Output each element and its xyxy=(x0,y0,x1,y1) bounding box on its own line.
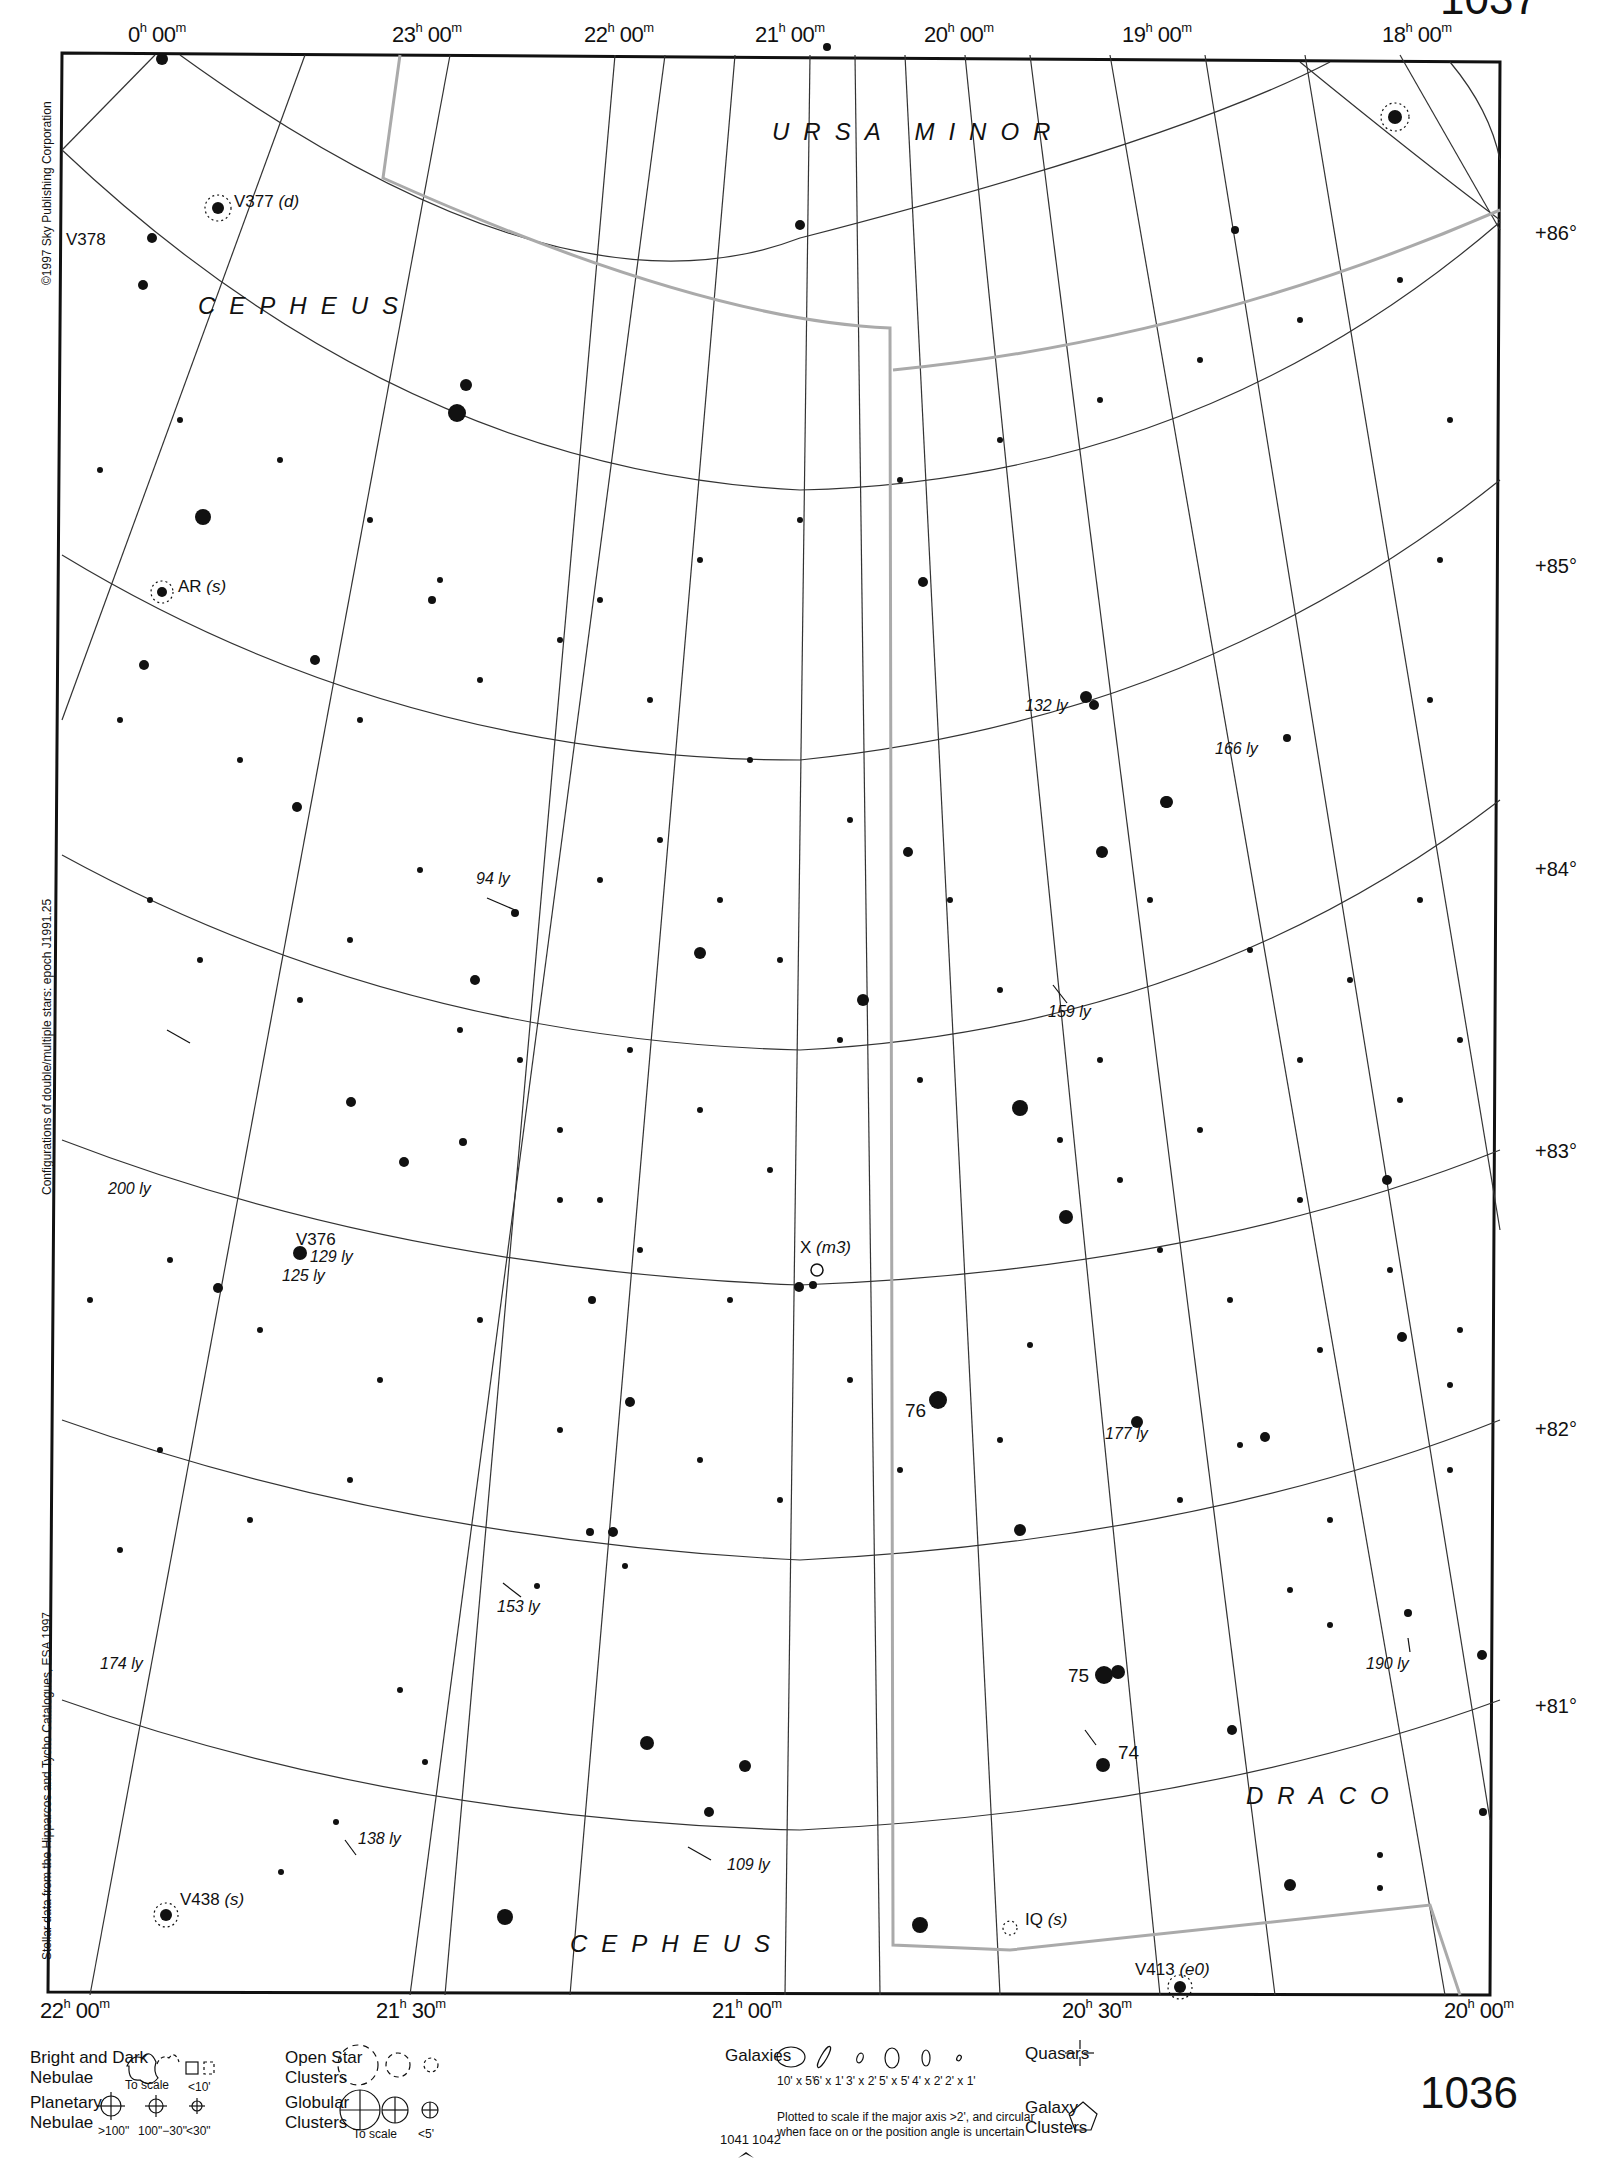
legend-title-line: Bright and Dark xyxy=(30,2048,148,2068)
legend-title-line: Galaxy xyxy=(1025,2098,1087,2118)
star-name: X xyxy=(800,1238,811,1257)
nav-next-page[interactable]: 1042 xyxy=(752,2132,781,2147)
star-note: (s) xyxy=(1048,1910,1068,1929)
ra-label: 23h 00m xyxy=(392,22,462,48)
ra-label: 20h 00m xyxy=(924,22,994,48)
constellation-name: DRACO xyxy=(1246,1782,1403,1810)
legend-galaxy-clusters-title: GalaxyClusters xyxy=(1025,2098,1087,2138)
ra-minutes: 00 xyxy=(1480,1998,1503,2023)
star-note: (s) xyxy=(224,1890,244,1909)
dec-label: +81° xyxy=(1535,1695,1577,1718)
legend-title-line: Globular xyxy=(285,2093,349,2113)
ra-minutes: 00 xyxy=(152,22,175,47)
legend-caption: 5' x 5' xyxy=(879,2074,910,2088)
star-note: (m3) xyxy=(816,1238,851,1257)
map-frame xyxy=(48,53,1500,1995)
distance-label: 166 ly xyxy=(1215,740,1258,758)
legend-note: Plotted to scale if the major axis >2', … xyxy=(777,2110,1034,2124)
legend-caption: To scale xyxy=(125,2078,169,2092)
ra-hours: 20 xyxy=(1062,1998,1085,2023)
star-note: (d) xyxy=(278,192,299,211)
ra-label: 22h 00m xyxy=(584,22,654,48)
legend-title-line: Clusters xyxy=(1025,2118,1087,2138)
legend-planetary-title: PlanetaryNebulae xyxy=(30,2093,102,2133)
dec-label: +85° xyxy=(1535,555,1577,578)
ra-minutes: 00 xyxy=(1418,22,1441,47)
ra-minutes: 30 xyxy=(1098,1998,1121,2023)
star-name: V438 xyxy=(180,1890,220,1909)
ra-minutes: 00 xyxy=(960,22,983,47)
constellation-boundaries xyxy=(383,55,1500,1995)
flamsteed-number: 76 xyxy=(905,1400,926,1422)
star-note: (s) xyxy=(206,577,226,596)
copyright-note: ©1997 Sky Publishing Corporation xyxy=(40,101,54,285)
distance-label: 159 ly xyxy=(1048,1003,1091,1021)
stars xyxy=(87,43,1487,1993)
epoch-note: Configurations of double/multiple stars:… xyxy=(40,899,54,1195)
data-source-note: Stellar data from the Hipparcos and Tych… xyxy=(40,1612,54,1960)
legend-title-line: Planetary xyxy=(30,2093,102,2113)
ra-hours: 22 xyxy=(584,22,607,47)
star-name: AR xyxy=(178,577,202,596)
ra-hours: 22 xyxy=(40,1998,63,2023)
star-label: V378 xyxy=(66,230,106,250)
legend-caption: <10' xyxy=(188,2080,211,2094)
legend-globular-title: GlobularClusters xyxy=(285,2093,349,2133)
legend-title-line: Nebulae xyxy=(30,2113,102,2133)
star-note: (e0) xyxy=(1179,1960,1209,1979)
star-name: IQ xyxy=(1025,1910,1043,1929)
ra-minutes: 00 xyxy=(1158,22,1181,47)
nav-arrow-icon[interactable] xyxy=(738,2152,754,2158)
legend-galaxies-title: Galaxies xyxy=(725,2046,791,2066)
legend-quasars-title: Quasars xyxy=(1025,2044,1089,2064)
star-label: V438 (s) xyxy=(180,1890,244,1910)
distance-label: 177 ly xyxy=(1105,1425,1148,1443)
ra-minutes: 00 xyxy=(76,1998,99,2023)
ra-minutes: 00 xyxy=(748,1998,771,2023)
distance-label: 125 ly xyxy=(282,1267,325,1285)
distance-label: 109 ly xyxy=(727,1856,770,1874)
star-label: V376 xyxy=(296,1230,336,1250)
flamsteed-number: 74 xyxy=(1118,1742,1139,1764)
declination-grid xyxy=(62,55,1500,1830)
legend-title-line: Open Star xyxy=(285,2048,363,2068)
ra-label: 21h 00m xyxy=(712,1998,782,2024)
nav-prev-page[interactable]: 1041 xyxy=(720,2132,749,2147)
ra-hours: 21 xyxy=(712,1998,735,2023)
ra-minutes: 00 xyxy=(620,22,643,47)
legend-title-line: Clusters xyxy=(285,2113,349,2133)
legend-title-line: Clusters xyxy=(285,2068,363,2088)
top-page-fragment: 1037 xyxy=(1440,0,1538,24)
ra-minutes: 00 xyxy=(791,22,814,47)
ra-label: 0h 00m xyxy=(128,22,186,48)
ra-hours: 23 xyxy=(392,22,415,47)
ra-label: 20h 30m xyxy=(1062,1998,1132,2024)
ra-minutes: 30 xyxy=(412,1998,435,2023)
distance-label: 174 ly xyxy=(100,1655,143,1673)
distance-label: 138 ly xyxy=(358,1830,401,1848)
ra-hours: 18 xyxy=(1382,22,1405,47)
page-number: 1036 xyxy=(1420,2068,1518,2118)
ra-label: 22h 00m xyxy=(40,1998,110,2024)
distance-label: 200 ly xyxy=(108,1180,151,1198)
ra-hours: 21 xyxy=(376,1998,399,2023)
legend-caption: <5' xyxy=(418,2127,434,2141)
legend-caption: >100" xyxy=(98,2124,129,2138)
star-name: V378 xyxy=(66,230,106,249)
star-label: V377 (d) xyxy=(234,192,299,212)
legend-caption: 6' x 1' xyxy=(813,2074,844,2088)
distance-label: 94 ly xyxy=(476,870,510,888)
legend-caption: 2' x 1' xyxy=(945,2074,976,2088)
distance-label: 132 ly xyxy=(1025,697,1068,715)
ra-minutes: 00 xyxy=(428,22,451,47)
star-label: V413 (e0) xyxy=(1135,1960,1210,1980)
legend-note: when face on or the position angle is un… xyxy=(777,2125,1025,2139)
ra-hours: 19 xyxy=(1122,22,1145,47)
legend-caption: <30" xyxy=(186,2124,211,2138)
ra-hours: 20 xyxy=(1444,1998,1467,2023)
dec-label: +86° xyxy=(1535,222,1577,245)
star-label: AR (s) xyxy=(178,577,226,597)
ra-hours: 21 xyxy=(755,22,778,47)
star-chart xyxy=(0,0,1604,2164)
star-name: V376 xyxy=(296,1230,336,1249)
